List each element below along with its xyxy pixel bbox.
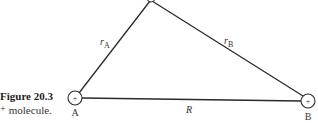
- label-R: R: [185, 104, 192, 115]
- edge-R: [82, 98, 301, 101]
- triangle-diagram: + A + B rA rB R: [0, 0, 318, 123]
- label-rA: rA: [100, 36, 110, 50]
- charge-A: +: [73, 94, 78, 103]
- label-B: B: [305, 111, 312, 122]
- nucleus-A: + A: [68, 91, 82, 118]
- label-A: A: [71, 107, 79, 118]
- edge-rA: [79, 1, 150, 93]
- charge-B: +: [306, 97, 311, 106]
- nucleus-B: + B: [301, 94, 315, 122]
